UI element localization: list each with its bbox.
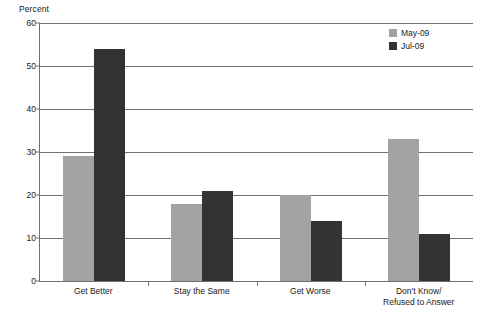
y-tick-label: 50 [27, 61, 36, 71]
legend-label: May-09 [401, 28, 429, 38]
y-tick-label: 20 [27, 190, 36, 200]
bar-group [148, 23, 256, 281]
bar-chart: Percent 0102030405060 Get BetterStay the… [0, 0, 487, 320]
bar-group [365, 23, 473, 281]
legend-label: Jul-09 [401, 41, 424, 51]
x-axis-labels: Get BetterStay the SameGet WorseDon't Kn… [39, 286, 473, 308]
legend-item[interactable]: Jul-09 [389, 41, 429, 51]
bar [202, 191, 233, 281]
bar-groups [40, 23, 473, 281]
x-axis-label: Get Better [39, 286, 148, 308]
y-axis-title: Percent [19, 4, 49, 14]
y-tick-label: 10 [27, 233, 36, 243]
bar-group [40, 23, 148, 281]
x-axis-label-line: Refused to Answer [365, 297, 474, 308]
legend-swatch-jul-09 [389, 42, 397, 50]
y-tick-label: 60 [27, 18, 36, 28]
legend-swatch-may-09 [389, 29, 397, 37]
bar [94, 49, 125, 281]
bar [280, 195, 311, 281]
x-axis-label: Stay the Same [148, 286, 257, 308]
x-axis-label-line: Get Worse [290, 286, 330, 296]
bar-group [257, 23, 365, 281]
bar [388, 139, 419, 281]
legend-item[interactable]: May-09 [389, 28, 429, 38]
bar [171, 204, 202, 281]
x-axis-label-line: Don't Know/ [396, 286, 442, 296]
bar [63, 156, 94, 281]
x-axis-label: Get Worse [256, 286, 365, 308]
x-axis-label-line: Get Better [74, 286, 113, 296]
plot-area: 0102030405060 [39, 23, 473, 282]
chart-legend: May-09Jul-09 [389, 28, 429, 51]
x-axis-label-line: Stay the Same [174, 286, 230, 296]
bar [311, 221, 342, 281]
y-tick-label: 40 [27, 104, 36, 114]
x-axis-label: Don't Know/Refused to Answer [365, 286, 474, 308]
y-tick-label: 30 [27, 147, 36, 157]
bar [419, 234, 450, 281]
